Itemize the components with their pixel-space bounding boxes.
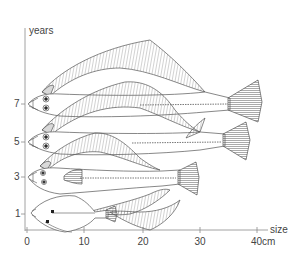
y-axis-label: years: [29, 26, 53, 36]
x-tick-label-10: 10: [78, 237, 89, 247]
caudal-fin: [223, 122, 250, 160]
caudal-fin: [178, 162, 199, 195]
y-tick-label-3: 3: [14, 172, 20, 182]
y-tick-label-1: 1: [15, 209, 21, 219]
x-tick-label-0: 0: [24, 237, 30, 247]
x-tick-label-40: 40cm: [251, 237, 275, 247]
x-tick-label-30: 30: [194, 237, 205, 247]
y-tick-label-7: 7: [14, 99, 20, 109]
growth-diagram: years size 7 5 3 1 0 10 20 30 40cm: [0, 0, 304, 267]
body: [28, 168, 180, 194]
y-tick-label-5: 5: [14, 137, 20, 147]
x-axis-label: size: [270, 225, 288, 235]
body: [31, 196, 108, 232]
fish-age-1: [31, 196, 180, 232]
x-tick-label-20: 20: [137, 237, 148, 247]
caudal-fin: [228, 80, 262, 122]
diagram-canvas: [0, 0, 304, 267]
